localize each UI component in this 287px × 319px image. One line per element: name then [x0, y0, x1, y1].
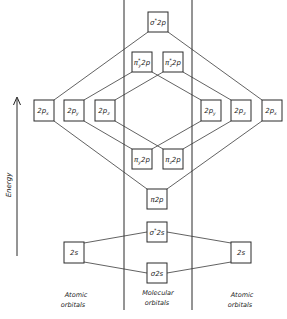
- mo-sigma-2p: π2p: [147, 189, 167, 209]
- mo-pi-star-y-2p: π*y2p: [132, 52, 152, 72]
- svg-text:2s: 2s: [70, 249, 78, 257]
- mo-pi-star-z-2p: π*z2p: [163, 52, 183, 72]
- mo-sigma-star-2p: σ*2p: [148, 12, 168, 32]
- energy-label: Energy: [5, 172, 13, 197]
- ao-right-2pz: 2pz: [231, 100, 251, 121]
- svg-text:orbitals: orbitals: [228, 301, 253, 309]
- ao-left-2px: 2px: [34, 100, 54, 121]
- caption-left: Atomic orbitals: [61, 291, 88, 309]
- ao-right-2py: 2py: [201, 100, 221, 121]
- svg-text:πz2p: πz2p: [165, 156, 181, 165]
- svg-text:Atomic: Atomic: [64, 291, 88, 299]
- ao-left-2py: 2py: [64, 100, 84, 121]
- caption-center: Molecular orbitals: [142, 289, 175, 307]
- svg-text:π*z2p: π*z2p: [165, 57, 182, 68]
- mo-pi-z-2p: πz2p: [163, 149, 183, 169]
- caption-right: Atomic orbitals: [228, 291, 254, 309]
- svg-text:πy2p: πy2p: [134, 156, 150, 165]
- svg-text:π*y2p: π*y2p: [134, 57, 151, 68]
- svg-text:Atomic: Atomic: [230, 291, 254, 299]
- svg-text:π2p: π2p: [150, 196, 164, 204]
- ao-right-2s: 2s: [231, 242, 251, 263]
- mo-diagram: Energy σ*2p π*y2p π*z2p πy2p: [0, 0, 287, 319]
- svg-text:σ2s: σ2s: [151, 270, 164, 278]
- svg-text:2s: 2s: [237, 249, 245, 257]
- ao-right-2px: 2px: [262, 100, 282, 121]
- svg-text:σ*2s: σ*2s: [149, 227, 164, 237]
- svg-text:orbitals: orbitals: [145, 299, 170, 307]
- mo-sigma-star-2s: σ*2s: [147, 222, 167, 242]
- mo-pi-y-2p: πy2p: [132, 149, 152, 169]
- svg-text:orbitals: orbitals: [61, 301, 86, 309]
- svg-text:Molecular: Molecular: [142, 289, 175, 297]
- svg-text:σ*2p: σ*2p: [150, 17, 166, 27]
- mo-sigma-2s: σ2s: [147, 263, 167, 283]
- ao-left-2pz: 2pz: [95, 100, 115, 121]
- energy-axis: Energy: [5, 97, 21, 256]
- ao-left-2s: 2s: [64, 242, 84, 263]
